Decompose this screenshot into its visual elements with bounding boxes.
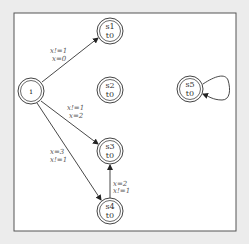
edge-label: x!=1 (50, 47, 67, 55)
node-sublabel: t0 (106, 90, 114, 99)
edge-label: x=2 (69, 112, 84, 120)
edge-label: x!=1 (67, 104, 84, 112)
state-node-s5[interactable]: s5 t0 (177, 76, 203, 102)
edge-label: x!=1 (50, 156, 67, 164)
state-node-s1[interactable]: s1 t0 (97, 18, 123, 44)
state-diagram: x!=1 x=0 x!=1 x=2 x=3 x!=1 x=2 x!=1 i s1… (0, 0, 249, 244)
node-label: s3 (105, 142, 114, 151)
node-label: i (30, 87, 33, 96)
state-node-s3[interactable]: s3 t0 (97, 138, 123, 164)
node-sublabel: t0 (106, 151, 114, 160)
state-node-s2[interactable]: s2 t0 (97, 77, 123, 103)
node-label: s2 (105, 81, 114, 90)
node-label: s4 (105, 202, 114, 211)
edge-label: x=3 (50, 148, 65, 156)
edge-label: x=0 (52, 55, 67, 63)
node-sublabel: t0 (106, 211, 114, 220)
diagram-frame (14, 13, 236, 231)
state-node-i[interactable]: i (18, 78, 44, 104)
node-sublabel: t0 (106, 31, 114, 40)
node-label: s1 (105, 22, 114, 31)
state-node-s4[interactable]: s4 t0 (97, 198, 123, 224)
edge-label: x!=1 (113, 187, 130, 195)
node-sublabel: t0 (186, 89, 194, 98)
node-label: s5 (185, 80, 194, 89)
